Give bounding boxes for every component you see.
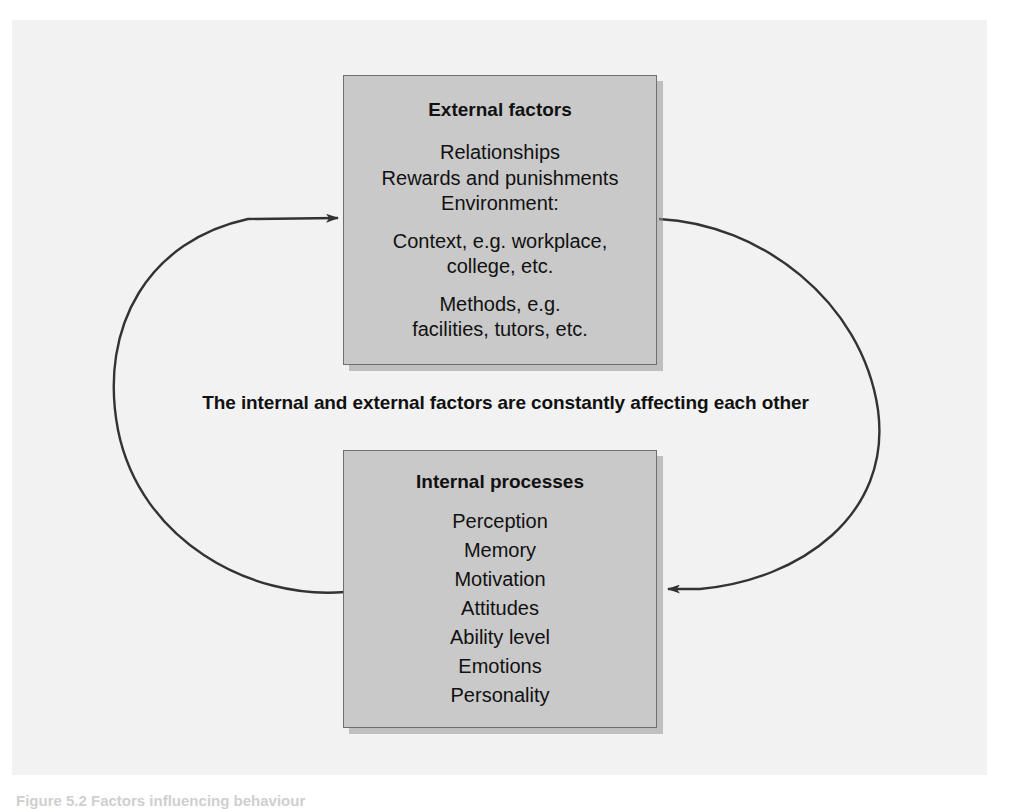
- list-item: Rewards and punishments: [344, 166, 656, 192]
- list-item: Environment:: [344, 191, 656, 217]
- external-factors-box: External factors Relationships Rewards a…: [343, 75, 657, 365]
- list-item: Methods, e.g.: [344, 292, 656, 318]
- external-factors-title: External factors: [344, 98, 656, 122]
- list-item: Perception: [344, 507, 656, 536]
- figure-root: External factors Relationships Rewards a…: [0, 0, 1011, 809]
- list-item: Attitudes: [344, 594, 656, 623]
- list-item: Motivation: [344, 565, 656, 594]
- list-item: facilities, tutors, etc.: [344, 317, 656, 343]
- list-item: Personality: [344, 681, 656, 710]
- list-item: Relationships: [344, 140, 656, 166]
- internal-processes-box: Internal processes Perception Memory Mot…: [343, 450, 657, 728]
- list-item: college, etc.: [344, 254, 656, 280]
- list-item: Emotions: [344, 652, 656, 681]
- centre-caption: The internal and external factors are co…: [0, 392, 1011, 414]
- figure-caption-cutoff: Figure 5.2 Factors influencing behaviour: [16, 792, 516, 809]
- list-item: Context, e.g. workplace,: [344, 229, 656, 255]
- external-factors-list: Relationships Rewards and punishments En…: [344, 140, 656, 343]
- list-item: Ability level: [344, 623, 656, 652]
- internal-processes-title: Internal processes: [344, 470, 656, 494]
- list-item: Memory: [344, 536, 656, 565]
- internal-processes-list: Perception Memory Motivation Attitudes A…: [344, 507, 656, 710]
